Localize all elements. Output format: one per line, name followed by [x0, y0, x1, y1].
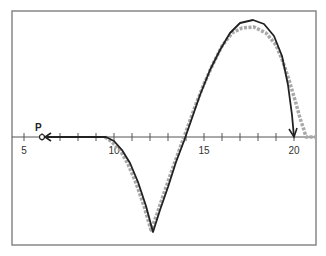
point-p-label: P [35, 122, 42, 133]
axis-tick-labels: 5101520 [21, 145, 300, 156]
axis-tick-label: 20 [288, 145, 300, 156]
axis-tick-label: 5 [21, 145, 27, 156]
waveform-diagram: 5101520 P [0, 0, 326, 256]
diagram-frame [12, 11, 316, 245]
axis-tick-label: 15 [198, 145, 210, 156]
black-model-curve [42, 20, 294, 232]
gray-measured-curve [105, 27, 316, 230]
